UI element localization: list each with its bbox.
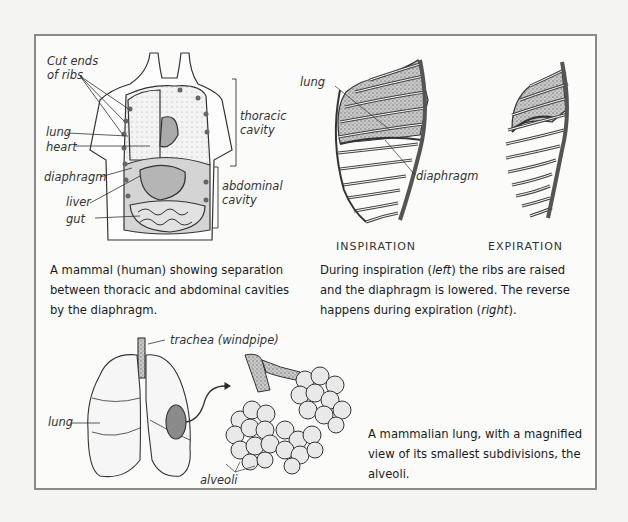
label-lung-lungs: lung xyxy=(48,416,73,429)
label-gut: gut xyxy=(66,213,85,226)
label-thoracic-line1: thoracic xyxy=(240,110,286,123)
caption-lungs: A mammalian lung, with a magnified view … xyxy=(368,424,590,484)
ribcage-inspiration-illustration xyxy=(335,60,428,222)
label-thoracic-line2: cavity xyxy=(240,124,275,137)
label-trachea: trachea (windpipe) xyxy=(170,334,279,347)
alveoli-illustration xyxy=(226,354,351,474)
label-lung-torso: lung xyxy=(46,126,71,139)
caption-torso: A mammal (human) showing separation betw… xyxy=(50,260,300,320)
caption-ribcage-text: During inspiration ( xyxy=(320,263,432,277)
torso-illustration xyxy=(67,53,236,240)
label-liver: liver xyxy=(66,196,91,209)
caption-ribcage-right: right xyxy=(481,303,508,317)
caption-ribcage: During inspiration (left) the ribs are r… xyxy=(320,260,590,320)
caption-ribcage-text: ). xyxy=(508,303,516,317)
label-abdominal-line1: abdominal xyxy=(222,180,283,193)
label-alveoli: alveoli xyxy=(200,474,238,487)
label-expiration: EXPIRATION xyxy=(488,240,563,253)
label-diaphragm-torso: diaphragm xyxy=(44,171,106,184)
label-cut-ends-of-ribs-line1: Cut ends xyxy=(47,55,98,68)
label-inspiration: INSPIRATION xyxy=(336,240,416,253)
ribcage-expiration-illustration xyxy=(506,62,568,218)
label-heart: heart xyxy=(46,141,77,154)
label-lung-ribcage: lung xyxy=(300,76,325,89)
label-abdominal-line2: cavity xyxy=(222,194,257,207)
label-cut-ends-of-ribs-line2: of ribs xyxy=(47,69,83,82)
label-diaphragm-ribcage: diaphragm xyxy=(416,170,478,183)
lungs-illustration xyxy=(70,338,230,477)
caption-ribcage-left: left xyxy=(432,263,451,277)
